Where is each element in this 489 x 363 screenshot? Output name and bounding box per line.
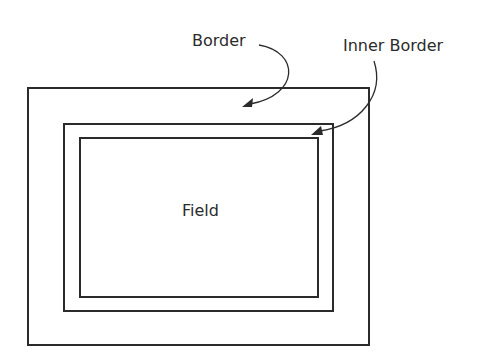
border-arrow-icon [242,45,289,107]
annotation-arrows [0,0,489,363]
inner-border-arrow-icon [311,61,377,135]
frame-diagram: Field Border Inner Border [0,0,489,363]
